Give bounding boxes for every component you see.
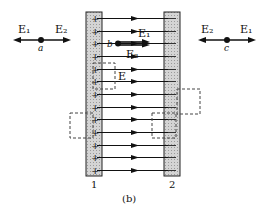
field-lines: +++++++++++++ [91, 13, 176, 176]
arrow-left-icon [198, 37, 206, 43]
vector-label-e1: E₁ [138, 27, 150, 40]
svg-text:+: + [91, 13, 99, 24]
vector-label-e2: E₂ [55, 23, 67, 36]
svg-text:+: + [91, 51, 99, 62]
plate-label-1: 1 [91, 179, 97, 190]
vector-label-e2: E₂ [201, 23, 213, 36]
svg-text:+: + [91, 140, 99, 151]
point-a: E₁ E₂ a [13, 23, 71, 53]
vector-label-e1: E₁ [18, 23, 30, 36]
svg-text:+: + [91, 76, 99, 87]
svg-text:+: + [91, 165, 99, 176]
vector-label-e1: E₁ [240, 23, 252, 36]
svg-text:+: + [91, 127, 99, 138]
arrow-right-icon [63, 37, 71, 43]
capacitor-field-diagram: +++++++++++++ E₁ E₂ a E₂ E₁ c b E₁ E₂ E … [0, 0, 265, 210]
svg-text:+: + [91, 38, 99, 49]
figure-caption: (b) [122, 193, 136, 204]
vector-label-e2: E₂ [126, 48, 138, 61]
svg-text:+: + [91, 152, 99, 163]
svg-text:+: + [91, 114, 99, 125]
point-label-b: b [107, 39, 113, 49]
svg-text:+: + [91, 102, 99, 113]
plate-label-2: 2 [169, 179, 175, 190]
point-label-c: c [224, 43, 229, 53]
svg-text:+: + [91, 64, 99, 75]
svg-text:+: + [91, 89, 99, 100]
svg-text:+: + [91, 26, 99, 37]
point-c: E₂ E₁ c [198, 23, 256, 53]
gauss-box-label: E [118, 70, 126, 83]
arrow-left-icon [13, 37, 21, 43]
point-label-a: a [38, 43, 43, 53]
arrow-right-icon [248, 37, 256, 43]
